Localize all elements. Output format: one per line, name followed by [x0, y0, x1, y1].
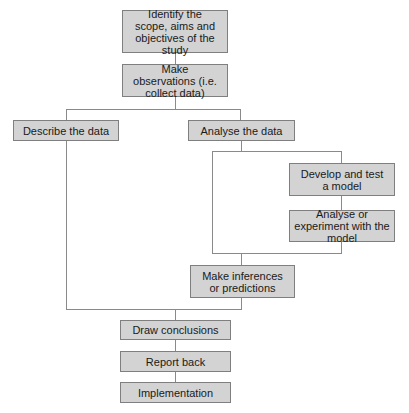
- connector-merge-conclusions: [66, 309, 242, 310]
- node-report-back: Report back: [120, 351, 231, 372]
- connector-conclusions-report: [175, 340, 176, 351]
- node-identify-scope: Identify the scope, aims and objectives …: [122, 10, 228, 53]
- connector-report-implementation: [175, 372, 176, 382]
- node-draw-conclusions: Draw conclusions: [120, 320, 231, 340]
- connector-merge-to-conclusions: [175, 309, 176, 320]
- connector-observe-split: [66, 109, 241, 110]
- connector-merge-inferences: [212, 253, 342, 254]
- node-make-observations: Make observations (i.e. collect data): [122, 64, 228, 97]
- node-implementation: Implementation: [120, 382, 231, 403]
- connector-analyse-split: [212, 151, 342, 152]
- connector-analyse-bypass: [212, 151, 213, 253]
- connector-analyse-down: [241, 141, 242, 151]
- node-analyse-data: Analyse the data: [188, 120, 295, 141]
- connector-split-analyse: [240, 109, 241, 120]
- connector-merge-to-inferences: [241, 253, 242, 265]
- node-make-inferences: Make inferences or predictions: [190, 265, 295, 298]
- node-develop-model: Develop and test a model: [289, 163, 395, 196]
- node-describe-data: Describe the data: [13, 120, 119, 141]
- connector-inferences-down: [241, 298, 242, 309]
- connector-split-describe: [66, 109, 67, 120]
- connector-split-develop: [341, 151, 342, 163]
- node-experiment-model: Analyse or experiment with the model: [289, 210, 395, 242]
- connector-observe-down: [175, 97, 176, 109]
- connector-describe-down: [66, 141, 67, 309]
